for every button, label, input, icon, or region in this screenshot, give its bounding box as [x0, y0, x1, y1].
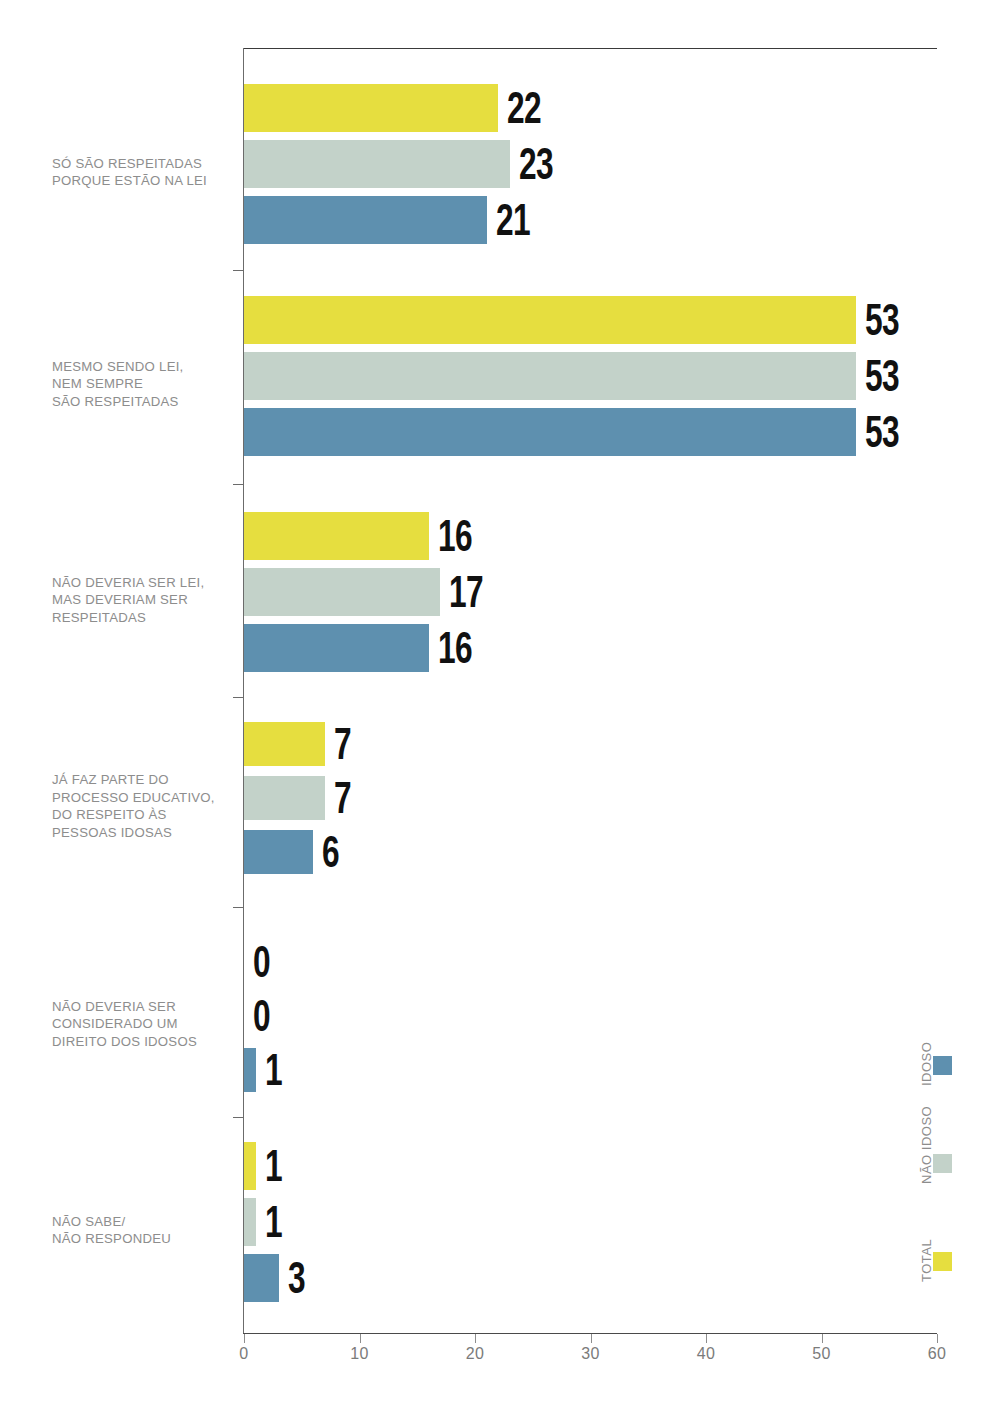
bar-value-label: 21 [496, 198, 530, 242]
legend-label: IDOSO [919, 1042, 934, 1086]
bar-value-label: 6 [322, 830, 339, 874]
legend-item[interactable]: TOTAL [908, 1216, 970, 1308]
bar [244, 1048, 256, 1092]
x-axis-tick [360, 1334, 361, 1343]
bar-value-label: 0 [253, 994, 270, 1038]
bar [244, 722, 325, 766]
bar [244, 296, 856, 344]
bar [244, 624, 429, 672]
y-axis-tick [233, 270, 243, 271]
x-axis-tick [244, 1334, 245, 1343]
bar [244, 196, 487, 244]
legend-item[interactable]: NÃO IDOSO [908, 1118, 970, 1210]
x-axis-tick [591, 1334, 592, 1343]
x-axis-tick [937, 1334, 938, 1343]
x-axis-tick-label: 30 [581, 1345, 600, 1363]
bar-value-label: 7 [334, 776, 351, 820]
bar [244, 352, 856, 400]
bar-chart: SÓ SÃO RESPEITADAS PORQUE ESTÃO NA LEIME… [0, 0, 991, 1427]
y-axis-tick [233, 907, 243, 908]
x-axis-tick-label: 50 [812, 1345, 831, 1363]
x-axis-tick [822, 1334, 823, 1343]
bar [244, 1142, 256, 1190]
legend-item[interactable]: IDOSO [908, 1020, 970, 1112]
bar-value-label: 0 [253, 940, 270, 984]
y-axis-tick [233, 484, 243, 485]
bar [244, 1254, 279, 1302]
bar [244, 512, 429, 560]
bar [244, 1198, 256, 1246]
bar-value-label: 1 [265, 1200, 282, 1244]
legend-label: NÃO IDOSO [919, 1106, 934, 1184]
bar [244, 84, 498, 132]
bar-value-label: 16 [438, 514, 472, 558]
bar-value-label: 17 [449, 570, 483, 614]
y-axis-tick [233, 1117, 243, 1118]
bar-value-label: 3 [288, 1256, 305, 1300]
bar [244, 140, 510, 188]
bar-value-label: 23 [519, 142, 553, 186]
legend-swatch [933, 1154, 952, 1173]
bar-value-label: 53 [865, 298, 899, 342]
bar-value-label: 53 [865, 354, 899, 398]
x-axis-tick-label: 10 [350, 1345, 369, 1363]
legend-swatch [933, 1056, 952, 1075]
bar [244, 776, 325, 820]
bar-value-label: 7 [334, 722, 351, 766]
bar-value-label: 53 [865, 410, 899, 454]
bar-value-label: 16 [438, 626, 472, 670]
bar-value-label: 1 [265, 1144, 282, 1188]
bar [244, 408, 856, 456]
x-axis-tick-label: 0 [239, 1345, 248, 1363]
chart-legend: IDOSONÃO IDOSOTOTAL [908, 1020, 970, 1310]
legend-label: TOTAL [919, 1239, 934, 1282]
bar-value-label: 1 [265, 1048, 282, 1092]
bar-value-label: 22 [507, 86, 541, 130]
x-axis-tick [475, 1334, 476, 1343]
x-axis-tick-label: 40 [697, 1345, 716, 1363]
y-axis-tick [233, 697, 243, 698]
legend-swatch [933, 1252, 952, 1271]
x-axis-tick [706, 1334, 707, 1343]
x-axis-tick-label: 20 [466, 1345, 485, 1363]
bar [244, 568, 440, 616]
bar [244, 830, 313, 874]
bars-layer: 222321535353161716776001113 [0, 0, 991, 1427]
x-axis-tick-label: 60 [928, 1345, 947, 1363]
